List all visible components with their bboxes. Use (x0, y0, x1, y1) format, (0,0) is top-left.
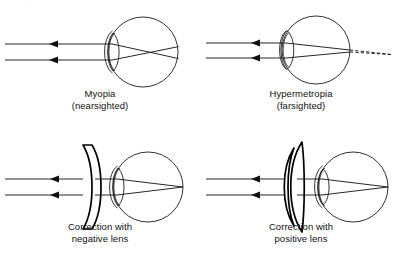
caption-line-1: Hypermetropia (201, 88, 401, 100)
negative-spectacle-lens (83, 145, 101, 229)
caption-line-2: (nearsighted) (0, 100, 200, 112)
caption-line-1: Correction with (201, 221, 401, 233)
diagram-positive-correction (201, 135, 401, 269)
light-rays-myopia (5, 41, 179, 64)
diagram-hypermetropia (201, 0, 401, 134)
panel-negative-correction: Correction with negative lens (0, 135, 200, 269)
positive-spectacle-lens (284, 142, 304, 232)
virtual-focus-dashed-rays (350, 50, 391, 55)
caption-line-2: positive lens (201, 233, 401, 245)
cornea-positive (315, 166, 325, 208)
crystalline-lens-negative (113, 168, 124, 206)
diagram-negative-correction (0, 135, 200, 269)
eyeball-hypermetropia (282, 16, 350, 84)
caption-line-2: negative lens (0, 233, 200, 245)
eyeball-positive (318, 152, 388, 222)
crystalline-lens-positive (318, 169, 329, 205)
figure-root: of the eye Myo (0, 0, 401, 269)
diagram-myopia (0, 0, 200, 134)
caption-myopia: Myopia (nearsighted) (0, 88, 200, 111)
caption-hypermetropia: Hypermetropia (farsighted) (201, 88, 401, 111)
caption-line-1: Myopia (0, 88, 200, 100)
caption-line-1: Correction with (0, 221, 200, 233)
caption-negative-correction: Correction with negative lens (0, 221, 200, 244)
light-rays-hypermetropia (206, 40, 350, 62)
caption-positive-correction: Correction with positive lens (201, 221, 401, 244)
panel-myopia: Myopia (nearsighted) (0, 0, 200, 134)
eyeball-negative (113, 152, 183, 222)
panel-hypermetropia: Hypermetropia (farsighted) (201, 0, 401, 134)
caption-line-2: (farsighted) (201, 100, 401, 112)
panel-positive-correction: Correction with positive lens (201, 135, 401, 269)
crystalline-lens-myopia (108, 33, 119, 71)
eyeball-myopia (108, 17, 178, 87)
